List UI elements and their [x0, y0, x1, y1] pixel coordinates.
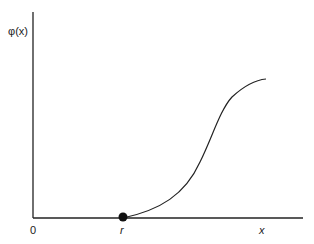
- phi-curve: [123, 79, 266, 218]
- x-axis-label: x: [259, 224, 265, 236]
- origin-label: 0: [30, 224, 36, 236]
- point-r-label: r: [120, 224, 124, 236]
- y-axis-label: φ(x): [8, 25, 28, 37]
- diagram-canvas: [0, 0, 314, 244]
- point-r-dot: [119, 213, 128, 222]
